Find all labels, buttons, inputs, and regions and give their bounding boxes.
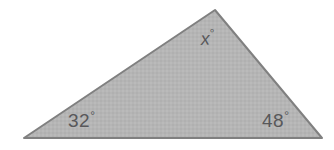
angle-label-bottom-left: 32° xyxy=(68,110,95,130)
degree-symbol-icon: ° xyxy=(90,109,95,123)
triangle-figure: x° 32° 48° xyxy=(0,0,334,150)
degree-symbol-icon: ° xyxy=(209,26,215,40)
angle-label-bottom-left-value: 32 xyxy=(68,110,90,131)
angle-label-bottom-right: 48° xyxy=(262,110,289,130)
angle-label-apex: x° xyxy=(200,27,215,48)
degree-symbol-icon: ° xyxy=(284,109,289,123)
angle-label-bottom-right-value: 48 xyxy=(262,110,284,131)
